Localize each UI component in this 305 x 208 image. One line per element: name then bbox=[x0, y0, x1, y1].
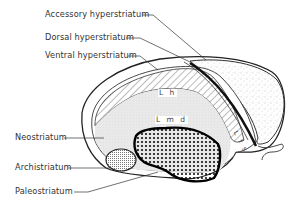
label-paleostriatum: Paleostriatum bbox=[15, 187, 73, 195]
label-archistriatum: Archistriatum bbox=[15, 163, 72, 171]
leader-accessory bbox=[142, 15, 206, 60]
label-accessory-hyperstriatum: Accessory hyperstriatum bbox=[45, 10, 149, 18]
label-neostriatum: Neostriatum bbox=[15, 133, 67, 141]
region-mark-lh: L h bbox=[158, 89, 177, 97]
region-mark-lmd: L m d bbox=[155, 116, 188, 124]
archistriatum-region bbox=[106, 149, 136, 171]
label-ventral-hyperstriatum: Ventral hyperstriatum bbox=[45, 51, 137, 59]
label-dorsal-hyperstriatum: Dorsal hyperstriatum bbox=[45, 33, 134, 41]
